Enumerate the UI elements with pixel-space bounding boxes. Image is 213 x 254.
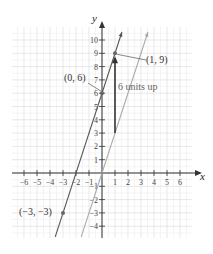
svg-text:4: 4 [152,178,156,187]
point-label-0-6: (0, 6) [64,72,86,84]
svg-text:−3: −3 [89,209,98,218]
svg-text:−3: −3 [59,178,68,187]
svg-text:7: 7 [94,76,98,85]
svg-text:8: 8 [94,63,98,72]
svg-text:2: 2 [94,142,98,151]
svg-text:−4: −4 [46,178,55,187]
svg-text:6: 6 [178,178,182,187]
svg-text:1: 1 [94,156,98,165]
tick-labels: −6−5−4−3−2−1123456−4−3−2−112345678910 [20,36,182,231]
svg-text:−5: −5 [33,178,42,187]
svg-text:6: 6 [94,89,98,98]
svg-text:3: 3 [139,178,143,187]
x-axis-label: x [199,170,205,182]
svg-text:9: 9 [94,49,98,58]
line-chart: −6−5−4−3−2−1123456−4−3−2−112345678910 x … [0,0,213,254]
svg-text:2: 2 [126,178,130,187]
y-axis-label: y [91,12,97,24]
svg-text:3: 3 [94,129,98,138]
svg-text:5: 5 [165,178,169,187]
svg-text:−6: −6 [20,178,29,187]
svg-text:−4: −4 [89,222,98,231]
point-label-neg3-neg3: (−3, −3) [19,206,52,218]
shift-annotation: 6 units up [118,81,157,92]
svg-text:1: 1 [113,178,117,187]
point-label-1-9: (1, 9) [146,54,168,66]
svg-text:10: 10 [90,36,98,45]
